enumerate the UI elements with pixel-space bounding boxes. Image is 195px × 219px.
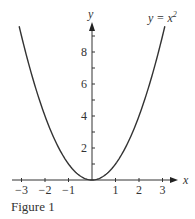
x-tick-label: 3 — [160, 183, 166, 197]
figure-canvas: −3−2−1123 2468 x y y = x2 — [0, 0, 195, 219]
x-ticks: −3−2−1123 — [15, 178, 165, 197]
axes — [12, 22, 178, 183]
y-tick-label: 4 — [81, 109, 87, 123]
y-tick-label: 6 — [81, 77, 87, 91]
curve-annotation: y = x2 — [147, 10, 177, 25]
y-tick-label: 2 — [81, 141, 87, 155]
x-tick-label: −2 — [39, 183, 52, 197]
figure-caption: Figure 1 — [11, 199, 55, 215]
x-axis-label: x — [182, 173, 189, 187]
x-axis-arrow-icon — [170, 177, 178, 183]
y-axis-arrow-icon — [89, 22, 95, 31]
x-tick-label: 1 — [113, 183, 119, 197]
y-tick-label: 8 — [81, 45, 87, 59]
x-tick-label: 2 — [136, 183, 142, 197]
y-axis-label: y — [87, 7, 94, 21]
y-ticks: 2468 — [81, 36, 95, 164]
x-tick-label: −1 — [62, 183, 75, 197]
x-tick-label: −3 — [15, 183, 28, 197]
